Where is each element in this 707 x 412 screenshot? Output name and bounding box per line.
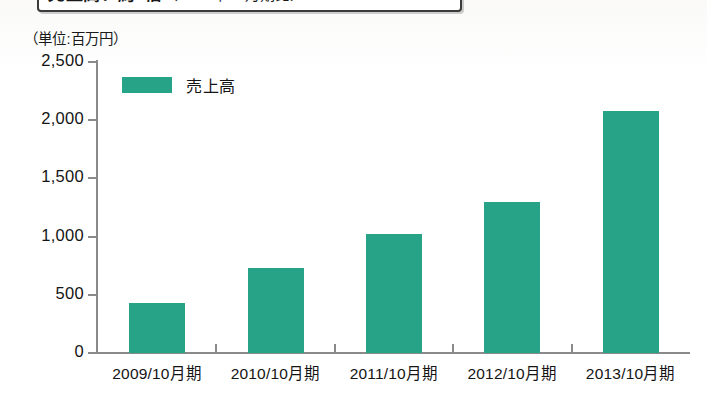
x-axis-tick	[571, 344, 573, 353]
y-axis-label: 0	[0, 342, 84, 362]
y-axis-label-text: 500	[6, 284, 84, 303]
bar-2010/10月期	[248, 268, 304, 353]
bar-2009/10月期	[129, 303, 185, 353]
y-axis-label: 2,000	[0, 109, 84, 129]
y-axis-tick	[88, 352, 97, 354]
y-axis-tick	[88, 236, 97, 238]
y-axis-label-text: 0	[6, 342, 84, 361]
y-axis-label-text: 2,500	[6, 51, 84, 70]
y-axis-tick	[88, 294, 97, 296]
y-axis-tick	[88, 61, 97, 63]
y-axis-tick	[88, 177, 97, 179]
y-axis-label-text: 1,000	[6, 226, 84, 245]
y-axis-label: 2,500	[0, 51, 84, 71]
bar-2012/10月期	[484, 202, 540, 353]
y-axis-label-text: 1,500	[6, 167, 84, 186]
legend-swatch-sales	[122, 77, 172, 93]
x-axis-label-2011/10月期: 2011/10月期	[335, 361, 453, 383]
y-axis-line	[96, 60, 98, 354]
legend: 売上高	[122, 73, 236, 97]
x-axis-tick	[334, 344, 336, 353]
x-axis-label-2013/10月期: 2013/10月期	[572, 361, 690, 383]
y-axis-tick	[88, 119, 97, 121]
bar-2011/10月期	[366, 234, 422, 353]
chart-plot-area: 05001,0001,5002,0002,500 2009/10月期2010/1…	[0, 0, 707, 412]
x-axis-tick	[452, 344, 454, 353]
y-axis-label: 1,000	[0, 226, 84, 246]
x-axis-label-2010/10月期: 2010/10月期	[216, 361, 334, 383]
x-axis-tick	[215, 344, 217, 353]
y-axis-label: 1,500	[0, 167, 84, 187]
legend-label-sales: 売上高	[186, 73, 236, 97]
x-axis-label-2009/10月期: 2009/10月期	[98, 361, 216, 383]
x-axis-label-2012/10月期: 2012/10月期	[453, 361, 571, 383]
y-axis-label-text: 2,000	[6, 109, 84, 128]
bar-2013/10月期	[603, 111, 659, 353]
y-axis-label: 500	[0, 284, 84, 304]
